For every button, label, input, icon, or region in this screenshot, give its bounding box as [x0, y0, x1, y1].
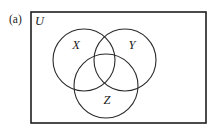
set-label-z: Z	[104, 93, 112, 107]
venn-diagram-canvas: (a) U X Y Z	[0, 0, 216, 138]
universal-set-label: U	[35, 14, 45, 28]
set-circle-x	[53, 29, 115, 91]
set-label-y: Y	[129, 38, 138, 52]
set-circle-z	[74, 54, 138, 118]
venn-diagram-figure: (a) U X Y Z	[0, 0, 216, 138]
universal-set-rectangle	[31, 12, 206, 123]
set-label-x: X	[71, 38, 81, 52]
part-label: (a)	[9, 13, 22, 26]
